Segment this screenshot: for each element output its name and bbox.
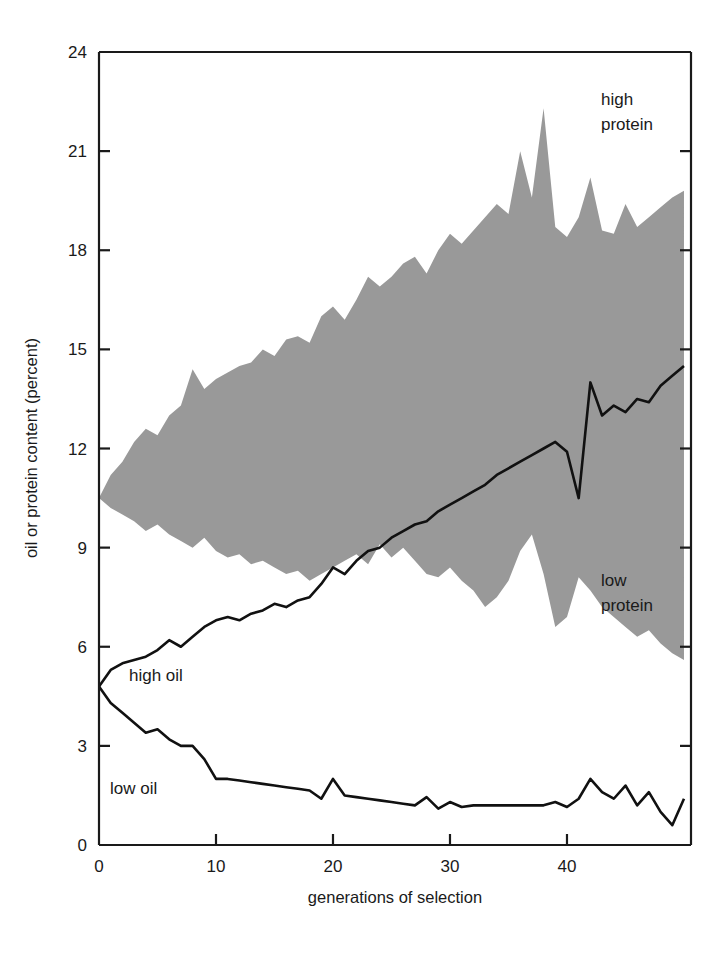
low-oil-label: low oil <box>110 779 157 798</box>
y-tick-label: 6 <box>78 638 87 657</box>
high-protein-label-line1: high <box>601 90 633 109</box>
high-protein-label-line2: protein <box>601 115 653 134</box>
y-tick-label: 24 <box>68 43 87 62</box>
high-oil-label: high oil <box>129 666 183 685</box>
y-tick-label: 21 <box>68 142 87 161</box>
y-axis-title: oil or protein content (percent) <box>22 338 40 558</box>
x-tick-label: 30 <box>441 857 460 876</box>
selection-experiment-chart: 03691215182124010203040 oil or protein c… <box>0 0 722 961</box>
low-protein-label-line2: protein <box>601 596 653 615</box>
chart-figure: 03691215182124010203040 oil or protein c… <box>0 0 722 961</box>
y-tick-label: 12 <box>68 440 87 459</box>
y-tick-label: 15 <box>68 340 87 359</box>
x-tick-label: 40 <box>558 857 577 876</box>
x-tick-label: 0 <box>94 857 103 876</box>
x-axis-title: generations of selection <box>308 888 482 906</box>
x-tick-label: 20 <box>324 857 343 876</box>
y-tick-label: 3 <box>78 737 87 756</box>
x-tick-label: 10 <box>207 857 226 876</box>
low-protein-label-line1: low <box>601 571 627 590</box>
y-tick-label: 9 <box>78 539 87 558</box>
y-tick-label: 0 <box>78 836 87 855</box>
y-tick-label: 18 <box>68 241 87 260</box>
